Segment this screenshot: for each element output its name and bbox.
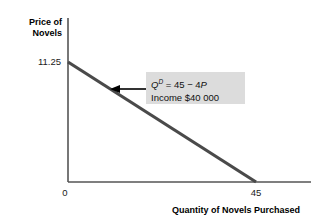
x-tick-label-45: 45 xyxy=(247,187,265,198)
callout-equation-line: QD = 45 − 4P xyxy=(151,75,245,91)
y-axis-title: Price of Novels xyxy=(8,17,62,39)
y-axis-title-line-2: Novels xyxy=(8,28,62,39)
equation-body: = 45 − 4 xyxy=(163,79,201,90)
demand-equation-callout: QD = 45 − 4P Income $40 000 xyxy=(146,72,245,104)
equation-p-symbol: P xyxy=(201,79,207,90)
callout-income-line: Income $40 000 xyxy=(151,91,245,104)
y-tick-label-11-25: 11.25 xyxy=(14,56,61,67)
x-tick-label-0: 0 xyxy=(59,187,71,198)
demand-curve-figure: Price of Novels Quantity of Novels Purch… xyxy=(0,0,329,224)
x-axis-title: Quantity of Novels Purchased xyxy=(172,205,300,216)
y-axis-title-line-1: Price of xyxy=(8,17,62,28)
